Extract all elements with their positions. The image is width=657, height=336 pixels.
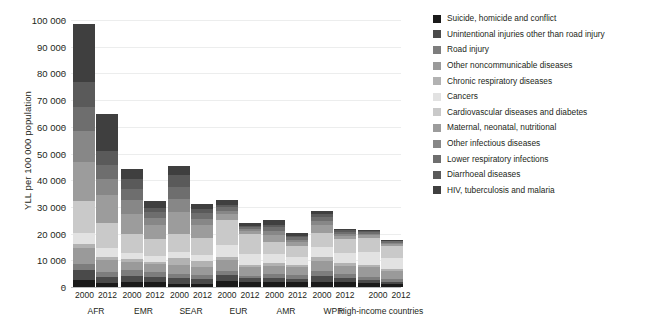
- bar-segment: [311, 225, 333, 232]
- bar-segment: [358, 283, 380, 287]
- bar-segment: [263, 266, 285, 275]
- legend-item[interactable]: Road injury: [433, 42, 655, 58]
- legend-item[interactable]: Cancers: [433, 89, 655, 105]
- bar-segment: [73, 248, 95, 264]
- legend-item[interactable]: Diarrhoeal diseases: [433, 167, 655, 183]
- bar-high-income-countries-2012[interactable]: [381, 240, 403, 287]
- bar-emr-2000[interactable]: [121, 169, 143, 287]
- x-axis-year-label: 2000: [216, 290, 239, 300]
- bar-segment: [191, 284, 213, 287]
- legend-swatch-icon: [433, 140, 441, 148]
- bar-sear-2000[interactable]: [168, 166, 190, 287]
- bar-segment: [239, 267, 261, 276]
- bar-segment: [168, 166, 190, 176]
- bar-sear-2012[interactable]: [191, 204, 213, 287]
- bar-eur-2000[interactable]: [216, 200, 238, 287]
- bar-afr-2012[interactable]: [96, 114, 118, 287]
- bar-segment: [216, 220, 238, 245]
- legend-item[interactable]: Suicide, homicide and conflict: [433, 11, 655, 27]
- bar-eur-2012[interactable]: [239, 223, 261, 287]
- y-axis-tick: [62, 73, 66, 74]
- y-axis-tick: [62, 260, 66, 261]
- bar-emr-2012[interactable]: [144, 201, 166, 287]
- bar-segment: [121, 214, 143, 234]
- bar-segment: [168, 265, 190, 274]
- y-axis-tick: [62, 287, 66, 288]
- bar-segment: [121, 276, 143, 283]
- legend-item[interactable]: Lower respiratory infections: [433, 151, 655, 167]
- bar-segment: [73, 270, 95, 280]
- bar-segment: [168, 187, 190, 200]
- bar-segment: [216, 245, 238, 257]
- bar-segment: [381, 246, 403, 258]
- legend-swatch-icon: [433, 15, 441, 23]
- bar-segment: [381, 284, 403, 287]
- legend-swatch-icon: [433, 155, 441, 163]
- legend-item[interactable]: Chronic respiratory diseases: [433, 73, 655, 89]
- legend-swatch-icon: [433, 93, 441, 101]
- bar-wpr-2000[interactable]: [311, 211, 333, 287]
- bar-amr-2012[interactable]: [286, 233, 308, 287]
- bar-segment: [96, 151, 118, 165]
- bar-segment: [144, 239, 166, 256]
- legend-item[interactable]: Other infectious diseases: [433, 136, 655, 152]
- bar-segment: [168, 258, 190, 265]
- legend-item[interactable]: Unintentional injuries other than road i…: [433, 27, 655, 43]
- bar-segment: [286, 267, 308, 275]
- legend-swatch-icon: [433, 46, 441, 54]
- bar-segment: [96, 260, 118, 271]
- legend-swatch-icon: [433, 30, 441, 38]
- y-axis-tick: [62, 154, 66, 155]
- x-axis-region-label: High-income countries: [336, 306, 426, 316]
- bar-segment: [73, 24, 95, 81]
- bar-segment: [286, 282, 308, 287]
- legend-item-label: Other infectious diseases: [447, 139, 540, 148]
- legend-item[interactable]: Cardiovascular diseases and diabetes: [433, 105, 655, 121]
- x-axis-group: 20002012High-income countries: [336, 290, 426, 316]
- bar-segment: [144, 201, 166, 208]
- bar-segment: [311, 261, 333, 271]
- legend-item-label: HIV, tuberculosis and malaria: [447, 186, 555, 195]
- legend-item-label: Diarrhoeal diseases: [447, 170, 520, 179]
- x-axis-year-label: 2012: [390, 290, 413, 300]
- bar-segment: [96, 114, 118, 151]
- bar-segment: [358, 252, 380, 265]
- bar-afr-2000[interactable]: [73, 24, 95, 287]
- legend-item-label: Lower respiratory infections: [447, 155, 548, 164]
- bar-segment: [73, 131, 95, 162]
- legend-swatch-icon: [433, 108, 441, 116]
- y-axis-tick: [62, 20, 66, 21]
- x-axis-year-label: 2000: [121, 290, 144, 300]
- bar-segment: [311, 282, 333, 287]
- gridline: [71, 127, 401, 128]
- bar-segment: [168, 175, 190, 186]
- bar-amr-2000[interactable]: [263, 220, 285, 287]
- bar-segment: [239, 234, 261, 254]
- bar-segment: [191, 225, 213, 239]
- bar-segment: [334, 239, 356, 252]
- bar-segment: [96, 248, 118, 257]
- legend-item-label: Unintentional injuries other than road i…: [447, 30, 605, 39]
- bar-segment: [286, 257, 308, 265]
- bar-segment: [263, 282, 285, 287]
- bar-segment: [381, 271, 403, 279]
- bar-wpr-2012[interactable]: [334, 229, 356, 287]
- bar-segment: [334, 282, 356, 287]
- bar-segment: [263, 242, 285, 255]
- legend-item[interactable]: Other noncommunicable diseases: [433, 58, 655, 74]
- bar-segment: [121, 262, 143, 271]
- bar-segment: [96, 195, 118, 223]
- bar-segment: [334, 266, 356, 274]
- x-axis-year-label: 2000: [367, 290, 390, 300]
- y-axis-tick-label: 100 000: [32, 15, 66, 26]
- legend-item[interactable]: Maternal, neonatal, nutritional: [433, 120, 655, 136]
- bar-high-income-countries-2000[interactable]: [358, 230, 380, 287]
- bar-segment: [191, 267, 213, 274]
- legend-item[interactable]: HIV, tuberculosis and malaria: [433, 183, 655, 199]
- bar-segment: [216, 260, 238, 271]
- gridline: [71, 47, 401, 48]
- y-axis-tick: [62, 47, 66, 48]
- x-axis-year-label: 2000: [73, 290, 96, 300]
- x-axis-year-label: 2000: [311, 290, 334, 300]
- bar-segment: [73, 280, 95, 287]
